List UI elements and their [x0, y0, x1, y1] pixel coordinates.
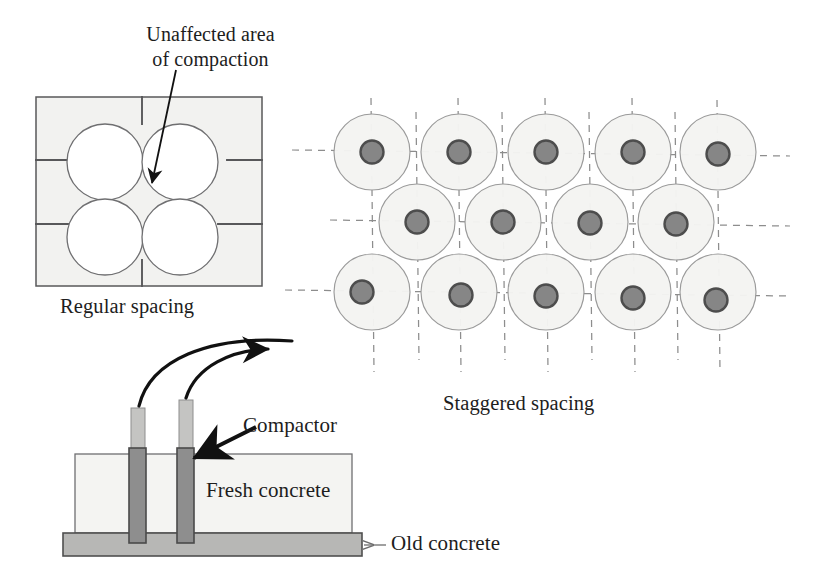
- insertion-point-dot: [361, 141, 384, 164]
- insertion-point-dot: [535, 141, 558, 164]
- compactor-label: Compactor: [243, 413, 337, 438]
- insertion-point-dot: [492, 211, 515, 234]
- insertion-point-dot: [579, 212, 602, 235]
- insertion-point-dot: [406, 211, 429, 234]
- compactor-rod-left: [129, 408, 146, 543]
- regular-spacing-caption: Regular spacing: [60, 295, 194, 318]
- staggered-spacing-caption: Staggered spacing: [443, 392, 594, 415]
- motion-arc-inner: [186, 349, 268, 398]
- compactor-motion-arrows: [139, 340, 292, 406]
- rod-shaft: [177, 448, 194, 543]
- insertion-point-dot: [705, 289, 728, 312]
- compaction-circle: [67, 124, 143, 200]
- compaction-circle: [142, 199, 218, 275]
- figure-root: Unaffected area of compaction Regular sp…: [0, 0, 814, 586]
- insertion-point-dot: [351, 281, 374, 304]
- insertion-point-dot: [622, 141, 645, 164]
- unaffected-area-line-1: Unaffected area: [118, 22, 303, 47]
- panel-regular-spacing: [36, 70, 262, 286]
- insertion-point-dot: [450, 284, 473, 307]
- old-concrete-label: Old concrete: [391, 531, 500, 556]
- unaffected-area-annotation: Unaffected area of compaction: [118, 22, 303, 72]
- rod-head: [131, 408, 145, 450]
- insertion-point-dot: [622, 287, 645, 310]
- panel-compactor-section: [63, 340, 386, 556]
- diagram-canvas: [0, 0, 814, 586]
- insertion-point-dot: [535, 285, 558, 308]
- fresh-concrete-label: Fresh concrete: [206, 478, 330, 503]
- unaffected-area-line-2: of compaction: [118, 47, 303, 72]
- old-concrete-slab: [63, 533, 362, 556]
- compactor-rod-right: [177, 400, 194, 543]
- compaction-circle: [142, 124, 218, 200]
- rod-shaft: [129, 448, 146, 543]
- compaction-circle: [67, 199, 143, 275]
- insertion-point-dot: [707, 143, 730, 166]
- insertion-point-dot: [448, 141, 471, 164]
- rod-head: [179, 400, 193, 450]
- insertion-point-dot: [665, 213, 688, 236]
- panel-staggered-spacing: [285, 98, 790, 372]
